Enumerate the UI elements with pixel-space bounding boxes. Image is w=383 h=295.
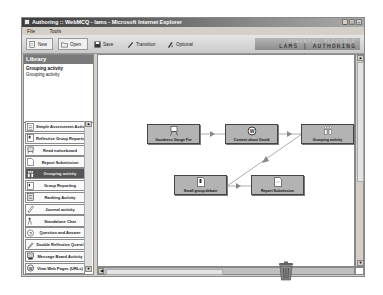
title-bar: Authoring :: WebMCQ - lams - Microsoft I… bbox=[22, 18, 364, 27]
library-item-double-reflective[interactable]: Double Reflective Questi bbox=[25, 239, 85, 250]
activity-node-small-group-debate[interactable]: Small group debate bbox=[174, 175, 227, 195]
close-button[interactable]: × bbox=[356, 19, 362, 25]
library-title: Library bbox=[24, 55, 93, 64]
library-item-label: Standalone Chat bbox=[36, 219, 84, 224]
library-item-label: Ranking Activity bbox=[36, 195, 84, 200]
library-item-journal-activity[interactable]: Journal activity bbox=[25, 204, 85, 215]
open-label: Open bbox=[70, 42, 81, 47]
svg-text:W: W bbox=[249, 128, 254, 134]
library-item-simple-assessment[interactable]: Simple Assessment Activ bbox=[25, 121, 85, 132]
noticeboard-icon bbox=[27, 146, 34, 154]
submission-icon bbox=[273, 177, 282, 187]
horizontal-scroll-thumb[interactable] bbox=[106, 269, 223, 275]
message-board-icon bbox=[27, 252, 34, 260]
svg-text:?: ? bbox=[29, 231, 32, 236]
canvas-scroll-up-button[interactable]: ▲ bbox=[357, 55, 364, 61]
grouping-icon bbox=[27, 170, 34, 178]
ie-app-icon bbox=[24, 19, 30, 25]
activity-node-goodness-gauge[interactable]: Goodness Gauge For bbox=[147, 124, 200, 144]
design-canvas[interactable]: Goodness Gauge For W Content about Gould… bbox=[97, 54, 355, 267]
optional-label: Optional bbox=[176, 42, 193, 47]
library-item-read-noticeboard[interactable]: Read noticeboard bbox=[25, 145, 85, 156]
library-panel: Library Grouping activity Grouping activ… bbox=[23, 54, 94, 275]
node-label: Report Submission bbox=[252, 189, 303, 193]
node-label: Small group debate bbox=[175, 189, 226, 193]
library-item-reflective-group-reports[interactable]: Reflective Group Reports bbox=[25, 133, 85, 144]
library-item-ranking-activity[interactable]: Ranking Activity bbox=[25, 192, 85, 203]
open-button[interactable]: Open bbox=[58, 38, 88, 50]
library-item-report-submission[interactable]: Report Submission bbox=[25, 156, 85, 167]
floppy-disk-icon bbox=[94, 41, 101, 48]
library-item-view-web-pages[interactable]: W View Web Pages (URLs) bbox=[25, 263, 85, 274]
library-item-label: Simple Assessment Activ bbox=[36, 124, 84, 129]
svg-text:W: W bbox=[29, 266, 33, 271]
web-content-icon: W bbox=[247, 126, 256, 136]
transition-lines bbox=[98, 55, 356, 268]
question-icon: ? bbox=[27, 229, 34, 237]
library-item-standalone-chat[interactable]: Standalone Chat bbox=[25, 215, 85, 226]
chat-icon bbox=[27, 217, 34, 225]
canvas-vertical-scrollbar[interactable]: ▲ ▼ bbox=[355, 54, 364, 267]
selected-activity-desc: Grouping activity bbox=[26, 72, 91, 78]
library-item-label: View Web Pages (URLs) bbox=[36, 266, 84, 271]
transition-pen-icon bbox=[127, 41, 134, 48]
new-document-icon bbox=[29, 41, 36, 48]
optional-button[interactable]: Optional bbox=[165, 38, 195, 50]
scroll-up-button[interactable]: ▲ bbox=[85, 121, 92, 127]
activity-node-report-submission[interactable]: Report Submission bbox=[251, 175, 304, 195]
library-item-label: Group Reporting bbox=[36, 183, 84, 188]
library-item-grouping-activity[interactable]: Grouping activity bbox=[25, 168, 85, 179]
library-description: Grouping activity Grouping activity bbox=[24, 64, 93, 123]
transition-label: Transition bbox=[136, 42, 156, 47]
debate-icon bbox=[196, 177, 205, 187]
activity-list: Simple Assessment Activ Reflective Group… bbox=[25, 121, 85, 272]
library-item-label: Reflective Group Reports bbox=[36, 136, 84, 141]
new-button[interactable]: New bbox=[26, 38, 53, 50]
node-label: Goodness Gauge For bbox=[148, 138, 199, 142]
brand-text: LAMS | AUTHORING bbox=[279, 42, 356, 49]
transition-button[interactable]: Transition bbox=[125, 38, 158, 50]
vertical-scroll-thumb[interactable] bbox=[357, 62, 364, 182]
library-item-label: Read noticeboard bbox=[36, 148, 84, 153]
new-label: New bbox=[38, 42, 47, 47]
menu-bar: File Tools bbox=[22, 27, 364, 35]
activity-node-content-about-gould[interactable]: W Content about Gould bbox=[225, 124, 278, 144]
canvas-scroll-left-button[interactable]: ◀ bbox=[98, 268, 104, 274]
web-icon: W bbox=[27, 264, 34, 272]
submission-icon bbox=[27, 158, 34, 166]
lams-authoring-banner: POWERFUL FLEXIBLE LAMS | AUTHORING bbox=[255, 38, 360, 50]
library-item-group-reporting[interactable]: Group Reporting bbox=[25, 180, 85, 191]
library-item-label: Message Board Activity bbox=[36, 254, 84, 259]
maximize-button[interactable]: □ bbox=[349, 19, 355, 25]
canvas-scroll-down-button[interactable]: ▼ bbox=[357, 260, 364, 266]
library-item-message-board[interactable]: Message Board Activity bbox=[25, 251, 85, 262]
save-label: Save bbox=[103, 42, 113, 47]
menu-file[interactable]: File bbox=[27, 28, 35, 34]
gauge-icon bbox=[169, 126, 178, 136]
library-item-label: Question and Answer bbox=[36, 230, 84, 235]
toolbar: New Open Save Transition Optional POWERF… bbox=[22, 35, 364, 54]
save-button[interactable]: Save bbox=[92, 38, 115, 50]
window-title: Authoring :: WebMCQ - lams - Microsoft I… bbox=[32, 18, 182, 27]
library-scrollbar[interactable]: ▲ ▼ bbox=[84, 121, 92, 272]
optional-pen-icon bbox=[167, 41, 174, 48]
canvas-horizontal-scrollbar[interactable]: ◀ bbox=[97, 267, 355, 275]
pencil-icon bbox=[27, 241, 34, 249]
folder-icon bbox=[61, 41, 68, 48]
library-item-label: Grouping activity bbox=[36, 171, 84, 176]
trash-icon[interactable] bbox=[277, 261, 295, 281]
list-doc-icon bbox=[27, 123, 34, 131]
node-label: Content about Gould bbox=[226, 138, 277, 142]
journal-icon bbox=[27, 205, 34, 213]
scrollbar-corner bbox=[355, 267, 364, 275]
minimize-button[interactable]: _ bbox=[342, 19, 348, 25]
report-icon bbox=[27, 134, 34, 142]
node-label: Grouping activity bbox=[302, 138, 353, 142]
activity-node-grouping[interactable]: Grouping activity bbox=[301, 124, 354, 144]
group-report-icon bbox=[27, 182, 34, 190]
library-item-label: Report Submission bbox=[36, 160, 84, 165]
scroll-down-button[interactable]: ▼ bbox=[85, 266, 92, 272]
menu-tools[interactable]: Tools bbox=[49, 28, 61, 34]
browser-window: Authoring :: WebMCQ - lams - Microsoft I… bbox=[21, 17, 365, 277]
library-item-question-and-answer[interactable]: ? Question and Answer bbox=[25, 227, 85, 238]
